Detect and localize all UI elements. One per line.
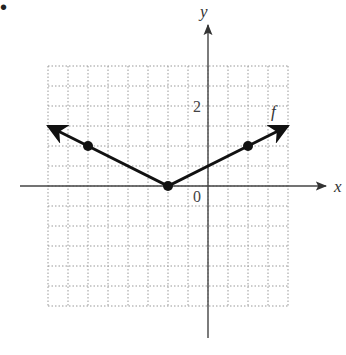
x-axis-label: x — [333, 177, 342, 196]
y-axis-label: y — [198, 2, 208, 21]
y-tick-label: 2 — [193, 98, 201, 115]
function-curve — [48, 126, 288, 186]
function-label: f — [271, 102, 278, 121]
data-point — [83, 141, 93, 151]
origin-label: 0 — [193, 188, 201, 205]
data-point — [243, 141, 253, 151]
graph: x y 0 2 f — [0, 0, 346, 355]
data-point — [163, 181, 173, 191]
